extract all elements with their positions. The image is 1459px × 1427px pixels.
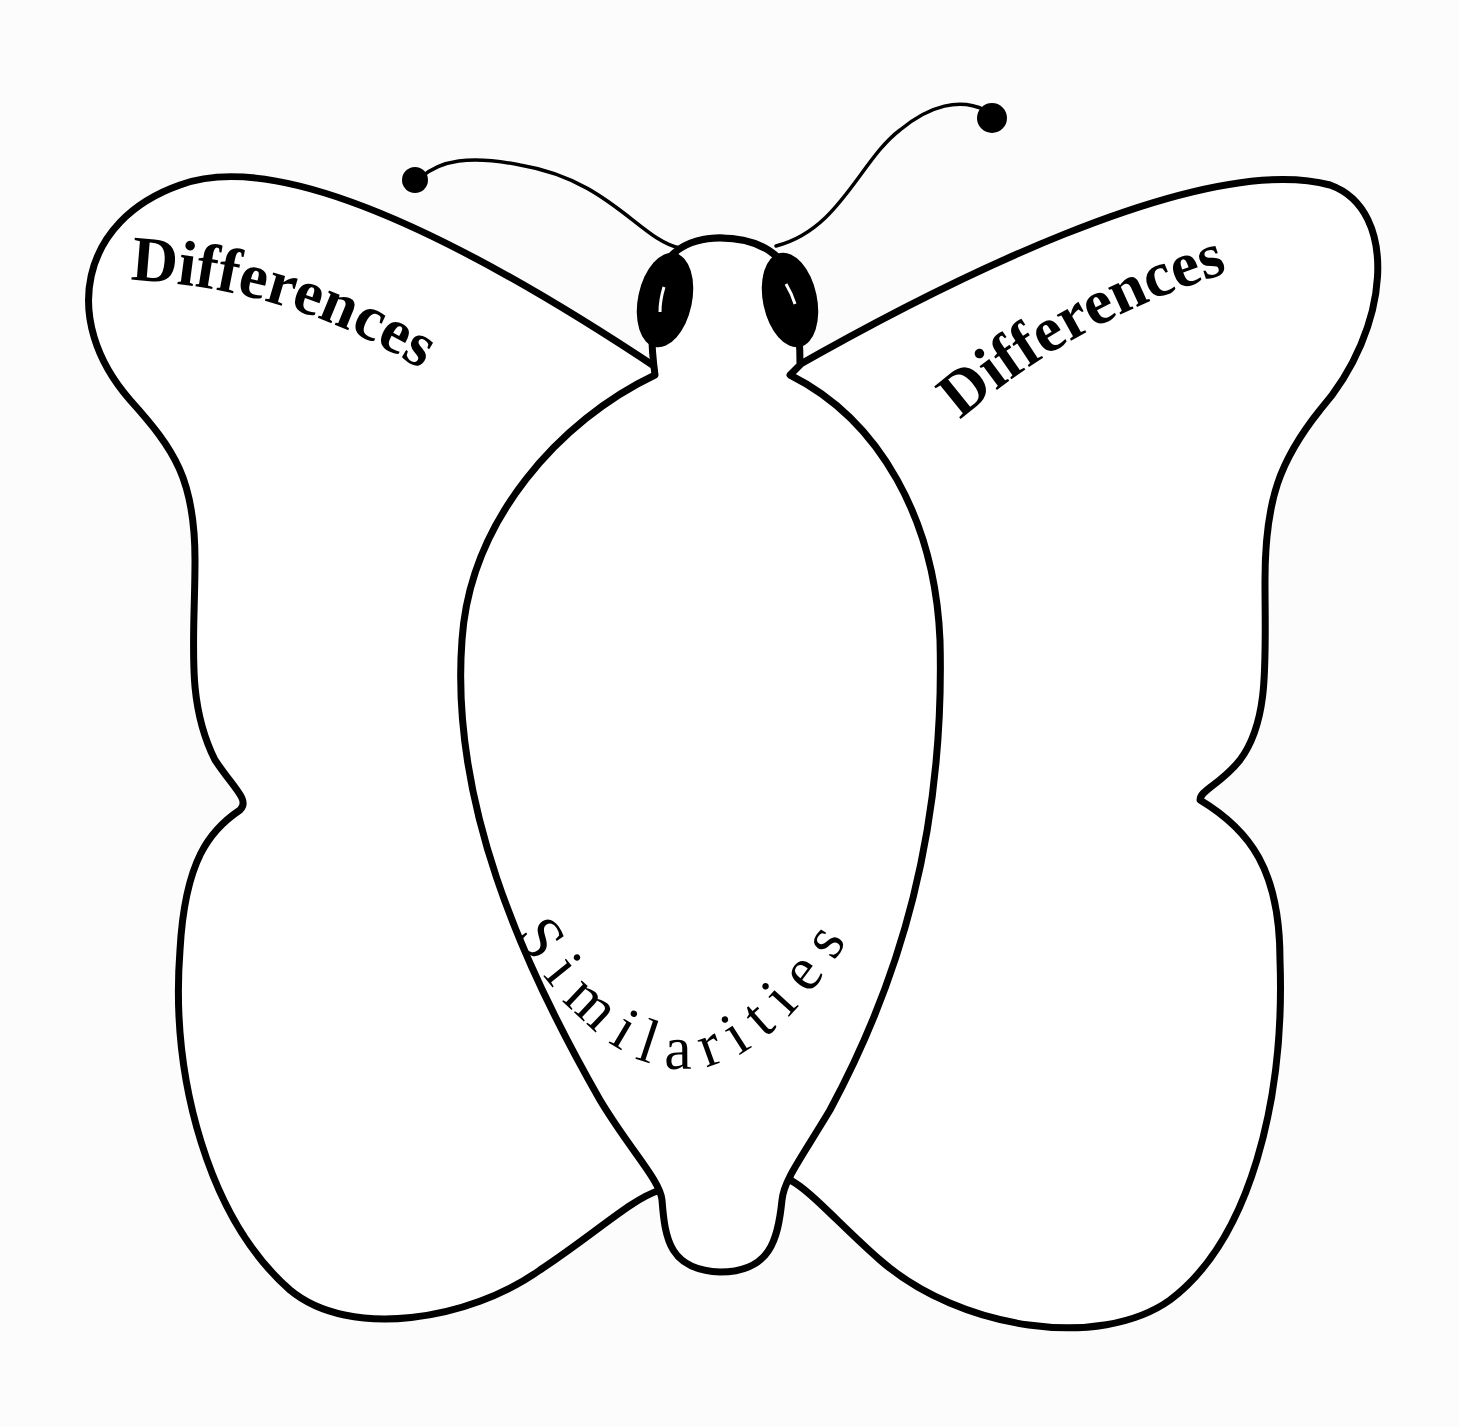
left-antenna-icon — [420, 160, 680, 248]
right-antenna-tip-icon — [977, 103, 1007, 133]
butterfly-organizer: Differences Differences Similarities — [0, 0, 1459, 1427]
left-antenna-tip-icon — [402, 167, 428, 193]
right-antenna-icon — [776, 104, 985, 246]
